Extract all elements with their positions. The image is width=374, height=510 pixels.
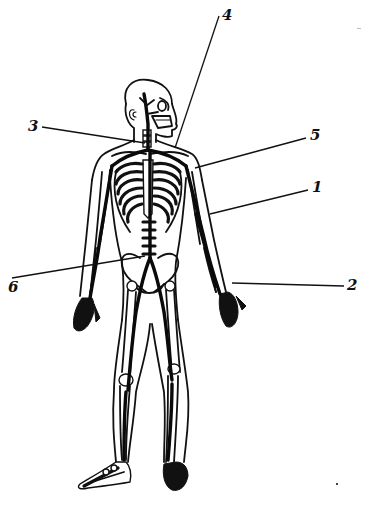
leader-line-1 [210,190,308,214]
ribs-right [154,163,181,232]
arterial-system [90,94,220,460]
callout-label-5: 5 [310,128,320,143]
scan-speck [336,483,338,485]
callout-label-4: 4 [222,8,232,23]
callout-label-2: 2 [347,278,357,293]
leader-line-2 [232,283,344,286]
leader-line-4 [175,16,219,148]
skeleton-circulatory-figure [0,0,374,510]
leader-line-5 [195,138,306,168]
callout-label-3: 3 [28,119,38,134]
skeleton [73,130,246,490]
ribs-left [115,163,142,232]
right-hand [219,292,246,327]
right-foot [163,462,188,490]
diagram-canvas: 1 2 3 4 5 6 [0,0,374,510]
scan-speck [357,28,361,29]
left-hand [73,298,100,331]
leader-line-3 [42,127,145,143]
callout-label-1: 1 [312,180,322,195]
callout-label-6: 6 [8,280,18,295]
left-foot [78,462,130,489]
